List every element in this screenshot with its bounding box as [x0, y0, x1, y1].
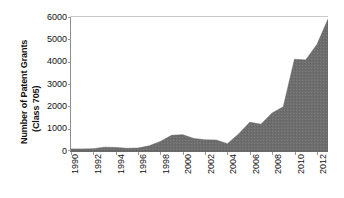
x-tick-label-2000: 2000 [184, 154, 193, 174]
x-tick-label-1998: 1998 [162, 154, 171, 174]
x-tick-label-2004: 2004 [229, 154, 238, 174]
y-tick-label-6000: 6000 [33, 13, 67, 22]
y-tick-label-3000: 3000 [33, 80, 67, 89]
x-tick-label-2008: 2008 [274, 154, 283, 174]
y-axis-title-line-1: Number of Patent Grants [19, 40, 29, 144]
x-tick-label-1994: 1994 [117, 154, 126, 174]
x-tick-label-2002: 2002 [207, 154, 216, 174]
y-tick-label-4000: 4000 [33, 57, 67, 66]
y-tick-label-2000: 2000 [33, 102, 67, 111]
x-axis-tick-labels: 1990 1992 1994 1996 1998 2000 2002 2004 … [70, 154, 328, 198]
x-tick-label-2012: 2012 [319, 154, 328, 174]
x-tick-label-1990: 1990 [71, 154, 80, 174]
y-tick-label-1000: 1000 [33, 124, 67, 133]
x-tick-label-2010: 2010 [297, 154, 306, 174]
y-axis-tick-labels: 6000 5000 4000 3000 2000 1000 0 [31, 0, 67, 198]
plot-area [70, 17, 328, 152]
y-tick-label-5000: 5000 [33, 35, 67, 44]
x-tick-label-1992: 1992 [94, 154, 103, 174]
y-tick-label-0: 0 [33, 147, 67, 156]
area-series-patent-grants [71, 17, 328, 151]
x-tick-label-1996: 1996 [139, 154, 148, 174]
chart-figure: Number of Patent Grants (Class 705) 6000… [0, 0, 344, 198]
x-tick-label-2006: 2006 [252, 154, 261, 174]
